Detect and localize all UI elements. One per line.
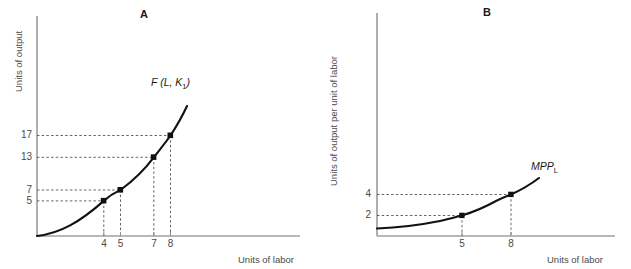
- panel-b-guide-lines: [377, 195, 511, 237]
- panel-b-mpp-curve: [377, 178, 539, 229]
- panel-a-ytick-17: 17: [12, 129, 32, 140]
- data-point-8-17: [168, 133, 174, 139]
- panel-a-curve-label: F (L, K1): [151, 76, 190, 91]
- panel-a: A Units of output Units of labor: [0, 0, 316, 269]
- panel-a-xtick-7: 7: [146, 238, 162, 249]
- panel-a-xtick-8: 8: [163, 238, 179, 249]
- panel-b-curve-label-main: MPP: [531, 160, 554, 172]
- data-point-5-2: [459, 213, 464, 218]
- panel-a-ytick-13: 13: [12, 151, 32, 162]
- panel-b-xtick-5: 5: [454, 238, 470, 249]
- panel-b-curve-label-subscript: L: [554, 166, 558, 175]
- panel-a-curve-label-close: ): [187, 76, 191, 88]
- panel-a-production-curve: [37, 106, 187, 236]
- panel-b: B Units of output per unit of labor Unit…: [315, 0, 631, 269]
- panel-b-plot: [315, 0, 631, 269]
- panel-a-ytick-7: 7: [12, 184, 32, 195]
- panel-a-ytick-5: 5: [12, 195, 32, 206]
- economics-production-figure: A Units of output Units of labor: [0, 0, 631, 269]
- data-point-5-7: [118, 187, 124, 193]
- panel-a-guide-lines: [37, 136, 171, 237]
- panel-a-xtick-5: 5: [113, 238, 129, 249]
- data-point-8-4: [508, 192, 513, 197]
- panel-b-ytick-2: 2: [351, 209, 371, 220]
- panel-b-ytick-4: 4: [351, 188, 371, 199]
- data-point-4-5: [101, 198, 107, 204]
- panel-b-curve-label: MPPL: [531, 160, 558, 175]
- panel-a-xtick-4: 4: [96, 238, 112, 249]
- panel-a-curve-label-main: F (L, K: [151, 76, 182, 88]
- panel-a-data-points: [101, 133, 173, 204]
- panel-b-xtick-8: 8: [503, 238, 519, 249]
- data-point-7-13: [151, 154, 157, 160]
- panel-a-plot: [0, 0, 316, 269]
